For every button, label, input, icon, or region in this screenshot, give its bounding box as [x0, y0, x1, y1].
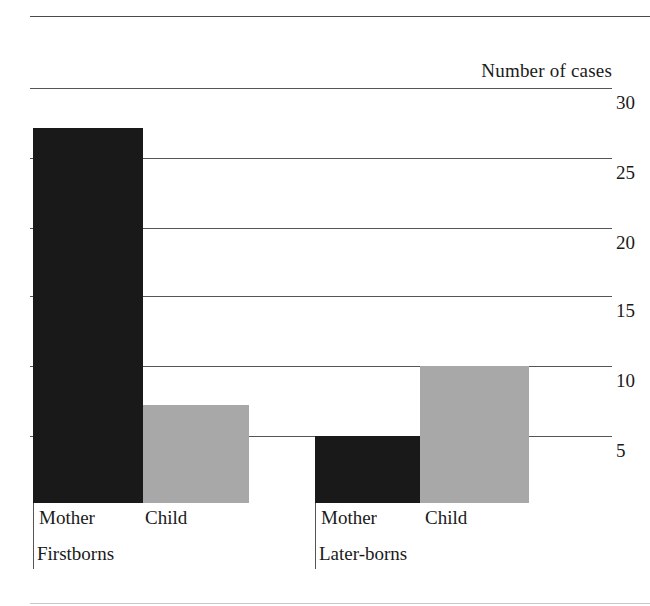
series-label-firstborns-mother: Mother [39, 507, 95, 529]
bar-laterborns-mother [315, 436, 420, 503]
gridline-30 [30, 88, 612, 89]
group-tick-laterborns [315, 503, 316, 569]
bottom-rule [30, 603, 650, 604]
y-tick-label-25: 25 [616, 163, 650, 182]
series-label-laterborns-mother: Mother [321, 507, 377, 529]
series-label-firstborns-child: Child [145, 507, 187, 529]
bar-chart-figure: Number of cases 30 25 20 15 10 5 Mother … [0, 0, 650, 606]
y-tick-label-15: 15 [616, 301, 650, 320]
bar-laterborns-child [420, 366, 529, 503]
y-tick-label-10: 10 [616, 371, 650, 390]
bar-firstborns-child [143, 405, 249, 503]
series-label-laterborns-child: Child [425, 507, 467, 529]
y-tick-label-30: 30 [616, 93, 650, 112]
y-tick-label-5: 5 [616, 441, 650, 460]
y-tick-label-20: 20 [616, 233, 650, 252]
group-label-firstborns: Firstborns [37, 543, 114, 565]
plot-area: 30 25 20 15 10 5 Mother Child Mother Chi… [0, 0, 650, 606]
group-tick-firstborns [33, 503, 34, 569]
group-label-laterborns: Later-borns [319, 543, 407, 565]
bar-firstborns-mother [33, 128, 143, 503]
